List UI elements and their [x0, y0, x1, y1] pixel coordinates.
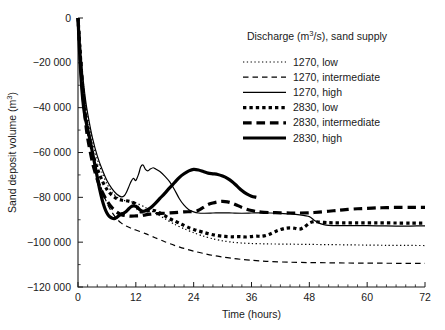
- x-tick-label: 60: [361, 291, 373, 303]
- legend-label: 2830, low: [293, 101, 338, 113]
- y-tick-label: −40 000: [33, 101, 71, 113]
- x-tick-label: 72: [419, 291, 431, 303]
- x-tick-label: 36: [246, 291, 258, 303]
- y-tick-label: −20 000: [33, 56, 71, 68]
- legend-label: 1270, intermediate: [293, 71, 380, 83]
- legend-label: 1270, high: [293, 86, 342, 98]
- y-tick-label: −60 000: [33, 146, 71, 158]
- y-tick-label: −120 000: [27, 281, 71, 293]
- legend-label: 2830, intermediate: [293, 116, 380, 128]
- x-tick-label: 24: [188, 291, 200, 303]
- y-tick-label: −80 000: [33, 191, 71, 203]
- x-axis-title: Time (hours): [222, 308, 281, 320]
- x-tick-label: 48: [303, 291, 315, 303]
- y-axis-title: Sand deposit volume (m3): [5, 92, 18, 213]
- x-tick-label: 0: [75, 291, 81, 303]
- sand-deposit-volume-chart: 01224364860720−20 000−40 000−60 000−80 0…: [0, 0, 445, 330]
- y-tick-label: 0: [65, 12, 71, 24]
- x-tick-label: 12: [130, 291, 142, 303]
- legend-label: 1270, low: [293, 56, 338, 68]
- y-tick-label: −100 000: [27, 236, 71, 248]
- svg-text:Sand deposit volume (m3): Sand deposit volume (m3): [5, 92, 18, 213]
- legend-label: 2830, high: [293, 132, 342, 144]
- legend-title: Discharge (m3/s), sand supply: [247, 29, 388, 42]
